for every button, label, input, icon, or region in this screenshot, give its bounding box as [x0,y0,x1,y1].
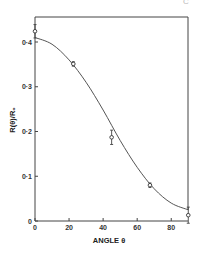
x-tick-label: 40 [99,224,107,231]
x-tick-label: 20 [65,224,73,231]
y-tick-label: 0·1 [22,173,32,180]
y-ticks: 00·10·20·30·4 [22,39,38,225]
y-tick-label: 0·2 [22,128,32,135]
y-tick-label: 0·4 [22,39,32,46]
data-point [33,25,37,38]
chart: C 020406080 00·10·20·30·4 ANGLE θ R(θ)/R… [0,0,197,256]
plot-frame [35,17,188,221]
theory-curve [35,38,188,210]
x-tick-label: 0 [33,224,37,231]
data-point [72,62,76,66]
data-point [148,183,152,187]
x-tick-label: 60 [133,224,141,231]
x-axis-label: ANGLE θ [93,236,125,245]
y-tick-label: 0 [28,218,32,225]
corner-glyph: C [183,0,189,6]
y-axis-label: R(θ)/R₀ [8,107,17,132]
x-tick-label: 80 [167,224,175,231]
data-points [33,25,190,224]
y-tick-label: 0·3 [22,83,32,90]
data-point [110,130,114,144]
x-ticks: 020406080 [33,218,175,231]
